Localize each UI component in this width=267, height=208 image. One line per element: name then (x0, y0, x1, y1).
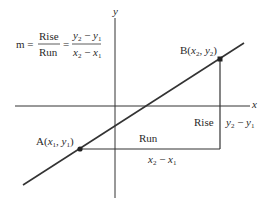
point-b-marker (218, 57, 223, 62)
formula-den: x2 − x1 (72, 46, 102, 60)
y-axis-label: y (112, 5, 118, 17)
formula-rise: Rise (39, 30, 59, 42)
run-label: Run (139, 132, 158, 144)
slope-formula: m = Rise Run = y2 − y1 x2 − x1 (16, 29, 102, 60)
point-b-label: B(x2, y2) (180, 44, 217, 58)
point-a-marker (77, 146, 82, 151)
formula-lhs: m = (16, 38, 34, 50)
formula-run: Run (39, 46, 58, 58)
slope-line (23, 43, 244, 185)
formula-eq2: = (63, 38, 69, 50)
rise-expression: y2 − y1 (225, 116, 255, 130)
formula-num: y2 − y1 (72, 29, 102, 43)
slope-diagram: y x A(x1, y1) B(x2, y2) Run Rise x2 − x1… (0, 0, 267, 208)
x-axis-label: x (251, 98, 257, 110)
point-a-label: A(x1, y1) (36, 135, 74, 149)
rise-label: Rise (194, 116, 214, 128)
run-expression: x2 − x1 (147, 153, 177, 167)
